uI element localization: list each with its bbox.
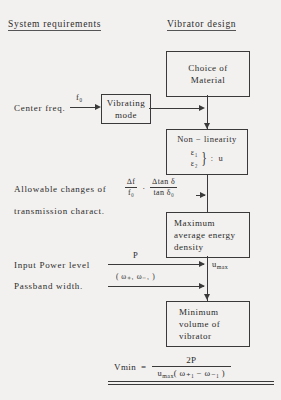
formula-denominator: umax( ω₊₁ − ω₋₁ ) (152, 366, 231, 378)
label-u-max-base: u (212, 259, 217, 269)
formula-fraction: 2P umax( ω₊₁ − ω₋₁ ) (152, 355, 231, 378)
fraction-group-allowable-changes: ∆f f₀ · ∆tan δ tan δ₀ (124, 177, 178, 198)
fraction-numerator: ∆f (124, 177, 138, 187)
header-system-requirements: System requirements (8, 19, 101, 31)
box-vibrating-mode: Vibrating mode (101, 94, 151, 124)
formula-denominator-u-subscript: max (162, 373, 174, 379)
box-choice-of-material-line1: Choice of (188, 62, 228, 74)
label-center-freq: Center freq. (14, 103, 65, 113)
label-transmission-charact: transmission charact. (14, 206, 105, 216)
connector-centerfreq-to-vibrating-mode (70, 107, 97, 108)
formula-underline-top (108, 381, 274, 382)
arrowhead-into-minvolume (204, 294, 210, 300)
box-min-volume-line2: volume of (167, 318, 220, 330)
brace-icon: } (202, 151, 208, 166)
epsilon-column: ε₁ ε₂ (191, 148, 198, 168)
label-u-max: umax (212, 259, 228, 269)
label-input-power-level: Input Power level (14, 260, 90, 270)
label-p-over-arrow: P (133, 250, 138, 260)
variable-u: u (218, 154, 223, 163)
fraction-delta-f-over-f0: ∆f f₀ (124, 177, 138, 198)
diagram-canvas: System requirements Vibrator design Choi… (0, 0, 281, 400)
fraction-delta-tan-over-tan: ∆tan δ tan δ₀ (149, 177, 178, 198)
box-maximum-average-energy-density: Maximum average energy density (166, 212, 250, 258)
box-max-energy-line2: average energy (167, 229, 236, 241)
dot-separator: · (142, 183, 145, 193)
formula-underline-bottom (108, 384, 274, 385)
box-non-linearity: Non − linearity ε₁ ε₂ } : u (166, 129, 248, 175)
formula-vmin: Vmin = 2P umax( ω₊₁ − ω₋₁ ) (114, 355, 231, 378)
box-vibrating-mode-line1: Vibrating (107, 97, 145, 109)
formula-lhs: Vmin (114, 362, 136, 372)
formula-denominator-rest: ( ω₊₁ − ω₋₁ ) (174, 368, 225, 378)
epsilon-2: ε₂ (191, 159, 198, 168)
connector-passband-to-spine (108, 286, 204, 287)
box-max-energy-line1: Maximum (167, 217, 215, 229)
box-vibrating-mode-line2: mode (115, 109, 137, 121)
arrowhead-spine-from-allowable (200, 192, 206, 198)
box-minimum-volume-of-vibrator: Minimum volume of vibrator (166, 301, 250, 347)
box-choice-of-material-line2: Material (191, 74, 226, 86)
fraction-denominator: tan δ₀ (150, 187, 177, 198)
arrowhead-spine-from-passband (199, 283, 205, 289)
label-passband-width: Passband width. (14, 281, 83, 291)
box-choice-of-material: Choice of Material (166, 51, 250, 97)
label-allowable-changes: Allowable changes of (14, 184, 106, 194)
formula-equals: = (141, 362, 146, 372)
box-max-energy-line3: density (167, 241, 204, 253)
box-min-volume-line3: vibrator (167, 330, 212, 342)
fraction-denominator: f₀ (125, 187, 137, 198)
non-linearity-epsilon-group: ε₁ ε₂ } : u (191, 148, 223, 168)
arrowhead-spine-from-vibrating-mode (199, 105, 205, 111)
formula-numerator: 2P (180, 355, 202, 366)
epsilon-1: ε₁ (191, 148, 198, 157)
label-omega-range-over-arrow: ( ω₊₁ ω₋₁ ) (116, 272, 155, 281)
arrowhead-spine-from-inputpower (199, 261, 205, 267)
connector-vibrating-mode-to-spine (149, 108, 201, 109)
label-u-max-subscript: max (217, 264, 229, 270)
box-min-volume-line1: Minimum (167, 306, 219, 318)
label-f0-over-arrow: f₀ (76, 92, 83, 102)
box-non-linearity-title: Non − linearity (177, 133, 237, 145)
header-vibrator-design: Vibrator design (167, 19, 236, 31)
connector-inputpower-to-spine (108, 264, 204, 265)
fraction-numerator: ∆tan δ (149, 177, 178, 187)
connector-nonlinearity-to-maxenergy (207, 175, 208, 212)
colon-separator: : (211, 154, 214, 163)
